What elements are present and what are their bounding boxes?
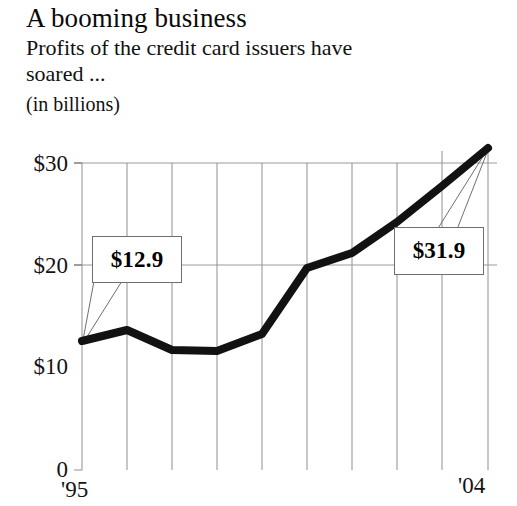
annotation-callout-left: $12.9 — [92, 236, 182, 283]
y-axis-label-20: $20 — [16, 254, 68, 277]
x-axis-label-last: '04 — [458, 474, 485, 497]
y-axis-ticks — [74, 163, 82, 265]
chart-figure: A booming business Profits of the credit… — [0, 0, 517, 506]
annotation-callout-right: $31.9 — [394, 227, 484, 275]
y-axis-label-10: $10 — [16, 355, 68, 378]
x-axis-label-first: '95 — [61, 478, 88, 501]
y-axis-label-30: $30 — [16, 152, 68, 175]
